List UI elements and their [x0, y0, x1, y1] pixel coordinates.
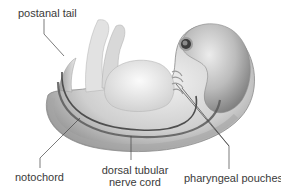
nerve-cord-label-line1: dorsal tubular: [97, 164, 173, 176]
embryo-diagram: postanal tail notochord dorsal tubular n…: [0, 0, 281, 195]
pharyngeal-pouches-label: pharyngeal pouches: [184, 172, 281, 184]
nerve-cord-label-line2: nerve cord: [97, 176, 173, 188]
nerve-cord-label: dorsal tubular nerve cord: [97, 164, 173, 188]
yolk-sac: [105, 60, 175, 111]
postanal-tail-shape: [58, 58, 76, 92]
notochord-label: notochord: [15, 171, 64, 183]
leader-postanal-tail: [44, 19, 64, 56]
postanal-tail-label: postanal tail: [18, 7, 77, 19]
